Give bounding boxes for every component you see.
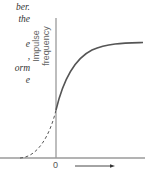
solid-curve — [56, 43, 143, 111]
response-curve-plot — [0, 0, 150, 176]
x-origin-tick-label: 0 — [53, 160, 58, 170]
dashed-curve — [20, 110, 56, 158]
arrow-head-icon — [110, 164, 115, 168]
